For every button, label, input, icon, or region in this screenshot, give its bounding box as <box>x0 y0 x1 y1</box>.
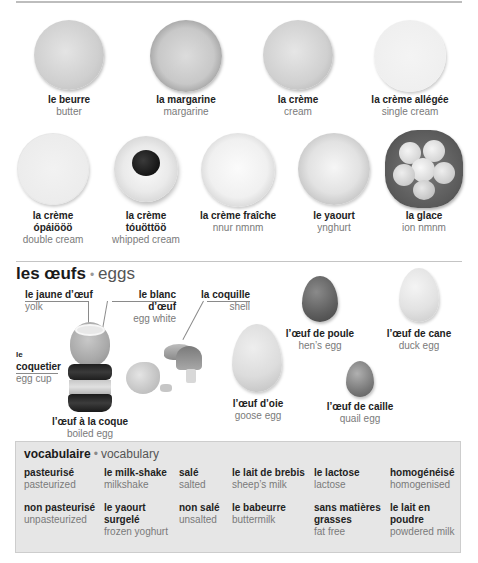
leader-line-shell <box>207 301 250 302</box>
shell-fragment-3 <box>186 369 196 383</box>
leader-line-yolk <box>25 301 89 302</box>
vocab-entry: le milk-shake milkshake <box>104 467 167 491</box>
egg-cup-band-2 <box>69 380 111 394</box>
item-label-en: ion nmnm <box>369 222 478 234</box>
vocab-fr: non pasteurisé <box>24 502 95 514</box>
vocab-en: sheep’s milk <box>232 479 305 491</box>
vocab-fr: le yaourt <box>104 502 168 514</box>
leader-line-egg-cup <box>16 373 58 374</box>
vocabulary-box: vocabulaire•vocabulary pasteurisé pasteu… <box>15 441 461 553</box>
vocab-en: lactose <box>314 479 360 491</box>
duck-egg-label: l’œuf de cane duck egg <box>364 328 474 352</box>
label-fr: l’œuf à la coque <box>35 416 145 428</box>
label-en: duck egg <box>364 340 474 352</box>
vocab-fr: le milk-shake <box>104 467 167 479</box>
single-cream-image <box>374 20 446 92</box>
vocab-en: pasteurized <box>24 479 76 491</box>
leader-line-shell-diag <box>182 301 204 340</box>
margarine-image <box>150 20 222 92</box>
title-separator: • <box>90 268 94 282</box>
vocab-fr: salé <box>179 467 206 479</box>
item-label-fr: la glace <box>369 210 478 222</box>
vocab-entry: le yaourt surgelé frozen yoghurt <box>104 502 168 538</box>
quail-egg-label: l’œuf de caille quail egg <box>305 401 415 425</box>
item-label-fr: la crème allégée <box>355 94 465 106</box>
shell-fragment-5 <box>160 384 172 392</box>
vocab-entry: non pasteurisé unpasteurized <box>24 502 95 526</box>
vocab-en: frozen yoghurt <box>104 526 168 538</box>
vocabulary-title: vocabulaire•vocabulary <box>24 447 159 461</box>
label-fr: la coquille <box>200 289 250 301</box>
eggs-title-fr: les œufs <box>16 264 86 283</box>
egg-cup-band-1 <box>68 364 112 380</box>
label-en: hen’s egg <box>265 340 375 352</box>
vocab-entry: le lait en poudre powdered milk <box>390 502 454 538</box>
label-en: egg white <box>116 313 176 325</box>
egg-cup-base <box>68 394 112 412</box>
label-en: yolk <box>25 301 93 313</box>
vocab-en: milkshake <box>104 479 167 491</box>
label-en: shell <box>200 301 250 313</box>
item-label-fr: le beurre <box>14 94 124 106</box>
item-label-en: single cream <box>355 106 465 118</box>
yoghurt-image <box>298 133 370 205</box>
label-fr-line2: coquetier <box>16 361 61 373</box>
duck-egg-image <box>399 268 439 322</box>
item-label-en: whipped cream <box>91 234 201 246</box>
label-en: goose egg <box>203 410 313 422</box>
vocab-en: fat free <box>314 526 381 538</box>
quail-egg-image <box>346 361 374 397</box>
vocab-en: unsalted <box>179 514 220 526</box>
label-fr-line1: le <box>16 349 61 361</box>
vocab-title-en: vocabulary <box>101 447 159 461</box>
vocab-entry: le babeurre buttermilk <box>232 502 286 526</box>
label-en: egg cup <box>16 373 61 385</box>
item-label-en: nnur nmnm <box>183 222 293 234</box>
top-divider <box>16 1 462 3</box>
item-label-en: margarine <box>131 106 241 118</box>
vocab-fr: le lait de brebis <box>232 467 305 479</box>
whipped-cream-image <box>112 130 180 208</box>
title-separator: • <box>94 447 98 461</box>
vocab-fr: homogénéisé <box>390 467 454 479</box>
label-fr: l’œuf de caille <box>305 401 415 413</box>
vocab-fr-line2: poudre <box>390 514 454 526</box>
label-fr: l’œuf de poule <box>265 328 375 340</box>
eggs-title-en: eggs <box>98 264 135 283</box>
label-en: quail egg <box>305 413 415 425</box>
ice-cream-image <box>385 130 463 208</box>
vocab-title-fr: vocabulaire <box>24 447 91 461</box>
vocab-entry: homogénéisé homogenised <box>390 467 454 491</box>
label-fr: l’œuf de cane <box>364 328 474 340</box>
item-label-fr: la margarine <box>131 94 241 106</box>
eggs-section-title: les œufs•eggs <box>16 264 135 284</box>
vocab-en: unpasteurized <box>24 514 95 526</box>
label-egg-cup: le coquetier egg cup <box>16 349 61 385</box>
egg-yolk-opening <box>75 324 105 336</box>
vocab-en: buttermilk <box>232 514 286 526</box>
eggs-divider <box>16 261 462 262</box>
vocab-fr: le babeurre <box>232 502 286 514</box>
vocab-en: homogenised <box>390 479 454 491</box>
vocab-en: salted <box>179 479 206 491</box>
vocab-fr: non salé <box>179 502 220 514</box>
hen-egg-image <box>302 276 338 322</box>
label-en: boiled egg <box>35 428 145 440</box>
shell-fragment-2 <box>176 346 202 370</box>
boiled-egg-image <box>66 322 114 414</box>
leader-line-egg-white <box>112 301 176 302</box>
double-cream-image <box>17 133 89 205</box>
vocab-fr-line2: surgelé <box>104 514 168 526</box>
dairy-item-creme-fraiche: la crème fraîche nnur nmnm <box>183 210 293 234</box>
label-fr: l’œuf d’oie <box>203 398 313 410</box>
berries <box>132 150 160 176</box>
vocab-entry: le lactose lactose <box>314 467 360 491</box>
item-label-en: cream <box>243 106 353 118</box>
vocab-entry: pasteurisé pasteurized <box>24 467 76 491</box>
dairy-item-margarine: la margarine margarine <box>131 94 241 118</box>
dairy-item-cream: la crème cream <box>243 94 353 118</box>
vocab-entry: sans matières grasses fat free <box>314 502 381 538</box>
vocab-fr: le lait en <box>390 502 454 514</box>
label-fr: le jaune d’œuf <box>25 289 93 301</box>
butter-image <box>34 20 104 90</box>
